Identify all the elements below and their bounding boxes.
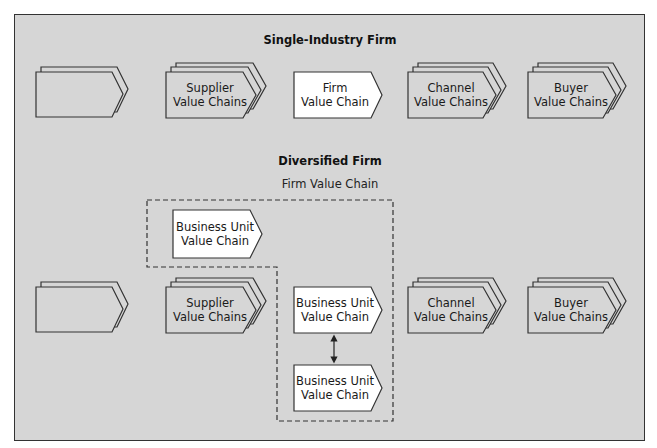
buyer-value-chains-stack-row1 bbox=[528, 63, 626, 118]
single-industry-title: Single-Industry Firm bbox=[230, 33, 430, 47]
business-unit-shape-bottom bbox=[294, 365, 382, 411]
unlabeled-value-chain-stack-row2 bbox=[36, 282, 128, 332]
unlabeled-value-chain-stack-row1 bbox=[36, 67, 128, 117]
firm-value-chain-shape bbox=[294, 72, 382, 118]
channel-value-chains-stack-row1 bbox=[408, 63, 506, 118]
supplier-value-chains-stack-row1 bbox=[166, 63, 266, 118]
buyer-value-chains-stack-row2 bbox=[528, 278, 626, 333]
channel-value-chains-stack-row2 bbox=[408, 278, 506, 333]
supplier-value-chains-stack-row2 bbox=[166, 278, 266, 333]
business-unit-shape-top bbox=[173, 210, 262, 258]
diversified-title: Diversified Firm bbox=[230, 154, 430, 168]
business-unit-shape-middle bbox=[294, 287, 382, 333]
value-system-diagram bbox=[0, 0, 657, 448]
firm-value-chain-label: Firm Value Chain bbox=[230, 177, 430, 191]
